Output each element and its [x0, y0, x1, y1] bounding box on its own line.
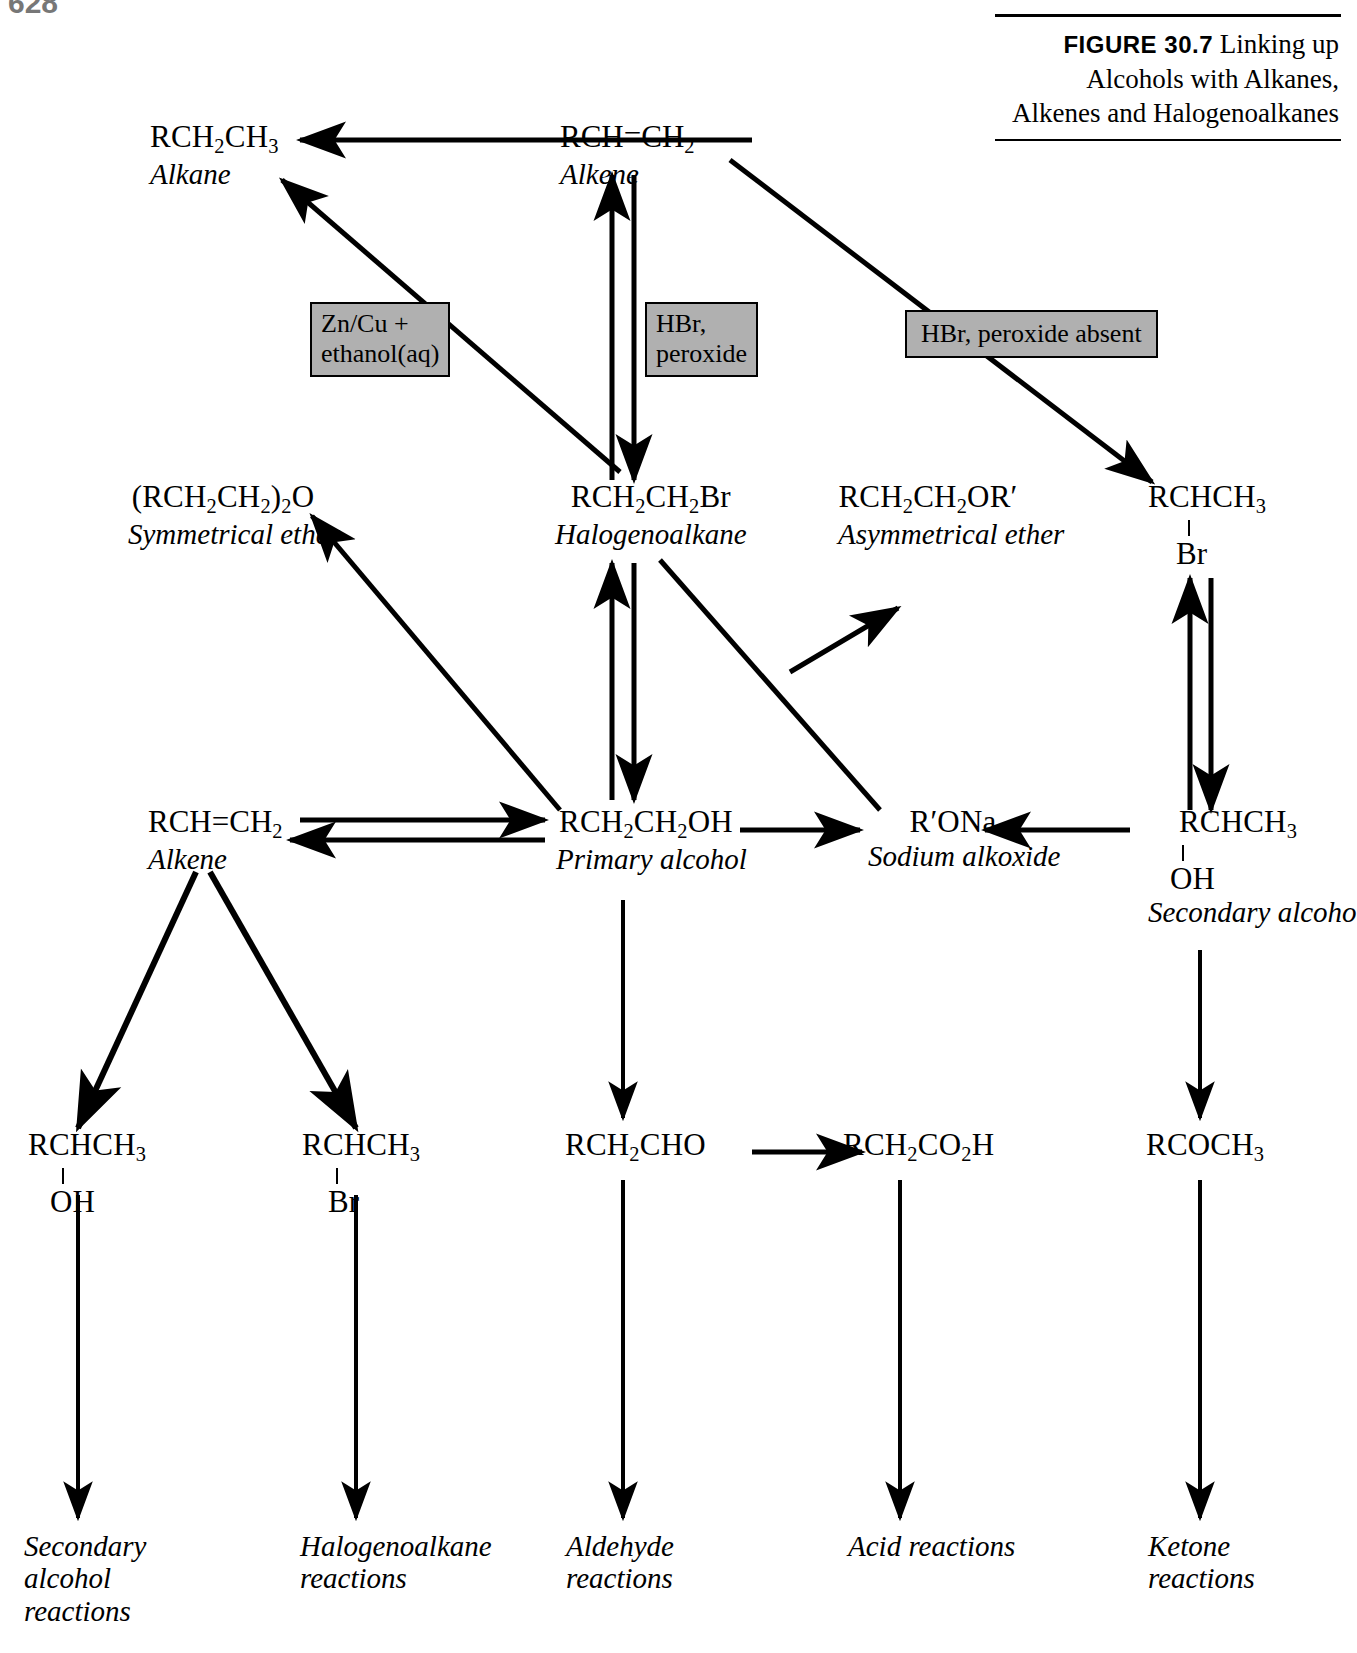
node-bromo-secondary: RCHCH3 Br [1148, 480, 1266, 571]
terminal-label: Secondary alcohol reactions [24, 1530, 204, 1627]
node-sodium-alkoxide: R′ONa Sodium alkoxide [868, 805, 1038, 872]
terminal-label: Ketone reactions [1148, 1530, 1338, 1595]
node-label: Alkene [560, 158, 695, 190]
node-ketone: RCOCH3 [1146, 1128, 1264, 1166]
terminal-label: Halogenoalkane reactions [300, 1530, 530, 1595]
label-aldehyde-reactions: Aldehyde reactions [566, 1530, 756, 1595]
formula: RCH2CHO [565, 1128, 706, 1166]
node-secondary-alcohol: RCHCH3 OH Secondary alcohol [1148, 805, 1328, 929]
node-label: Symmetrical ether [128, 518, 318, 550]
formula: RCHCH3 [1148, 805, 1328, 843]
formula: RCH2CO2H [843, 1128, 994, 1166]
node-asymmetrical-ether: RCH2CH2OR′ Asymmetrical ether [838, 480, 1018, 550]
node-aldehyde: RCH2CHO [565, 1128, 706, 1166]
substituent: Br [302, 1185, 420, 1220]
line-halogenoalkane-crossing [660, 560, 880, 810]
node-alkene-top: RCH=CH2 Alkene [560, 120, 695, 190]
node-halogenoalkane: RCH2CH2Br Halogenoalkane [555, 480, 747, 550]
node-alkene-mid: RCH=CH2 Alkene [148, 805, 283, 875]
arrow-alcohol-to-symmetrical-ether [312, 516, 560, 810]
caption-body: FIGURE 30.7 Linking up Alcohols with Alk… [995, 17, 1341, 139]
formula: RCH=CH2 [148, 805, 283, 843]
label-secondary-alcohol-reactions: Secondary alcohol reactions [24, 1530, 204, 1627]
node-label: Asymmetrical ether [838, 518, 1018, 550]
node-alkane-top: RCH2CH3 Alkane [150, 120, 279, 190]
label-acid-reactions: Acid reactions [848, 1530, 1028, 1562]
bond-line [1188, 520, 1190, 536]
figure-label: FIGURE 30.7 [1063, 31, 1213, 58]
node-label: Alkane [150, 158, 279, 190]
node-symmetrical-ether: (RCH2CH2)2O Symmetrical ether [128, 480, 318, 550]
arrow-to-asymmetrical-ether [790, 608, 898, 672]
substituent: Br [1148, 537, 1266, 572]
bond-line [336, 1168, 338, 1184]
formula: RCH2CH2OR′ [838, 480, 1018, 518]
formula: RCH2CH3 [150, 120, 279, 158]
condition-line: ethanol(aq) [321, 339, 439, 369]
node-label: Sodium alkoxide [868, 840, 1038, 872]
condition-line: Zn/Cu + [321, 309, 439, 339]
node-acid: RCH2CO2H [843, 1128, 994, 1166]
node-primary-alcohol: RCH2CH2OH Primary alcohol [556, 805, 736, 875]
formula: RCHCH3 [302, 1128, 420, 1166]
arrow-alkene-to-halogenoalkane-bottom [210, 872, 356, 1128]
formula: RCOCH3 [1146, 1128, 1264, 1166]
arrow-alkene-to-secondary-alcohol-bottom [78, 872, 196, 1128]
node-bottom-halogenoalkane: RCHCH3 Br [302, 1128, 420, 1219]
substituent: OH [1148, 862, 1328, 897]
node-label: Alkene [148, 843, 283, 875]
label-ketone-reactions: Ketone reactions [1148, 1530, 1338, 1595]
formula: RCH=CH2 [560, 120, 695, 158]
formula: R′ONa [868, 805, 1038, 840]
figure-caption: FIGURE 30.7 Linking up Alcohols with Alk… [995, 14, 1341, 141]
formula: (RCH2CH2)2O [128, 480, 318, 518]
node-bottom-secondary-alcohol: RCHCH3 OH [28, 1128, 146, 1219]
bond-line [1182, 845, 1184, 861]
formula: RCH2CH2OH [556, 805, 736, 843]
condition-hbr-peroxide-absent: HBr, peroxide absent [905, 310, 1158, 358]
caption-rule-bottom [995, 139, 1341, 141]
substituent: OH [28, 1185, 146, 1220]
condition-line: HBr, [656, 309, 747, 339]
condition-line: HBr, peroxide absent [921, 319, 1142, 349]
condition-line: peroxide [656, 339, 747, 369]
condition-hbr-peroxide: HBr, peroxide [645, 302, 758, 377]
node-label: Secondary alcohol [1148, 896, 1328, 928]
condition-zn-cu-ethanol: Zn/Cu + ethanol(aq) [310, 302, 450, 377]
label-halogenoalkane-reactions: Halogenoalkane reactions [300, 1530, 530, 1595]
terminal-label: Aldehyde reactions [566, 1530, 756, 1595]
node-label: Halogenoalkane [555, 518, 747, 550]
bond-line [62, 1168, 64, 1184]
node-label: Primary alcohol [556, 843, 736, 875]
formula: RCH2CH2Br [555, 480, 747, 518]
formula: RCHCH3 [1148, 480, 1266, 518]
terminal-label: Acid reactions [848, 1530, 1028, 1562]
figure-canvas: 628 [0, 0, 1357, 1653]
page-number: 628 [8, 0, 58, 20]
formula: RCHCH3 [28, 1128, 146, 1166]
